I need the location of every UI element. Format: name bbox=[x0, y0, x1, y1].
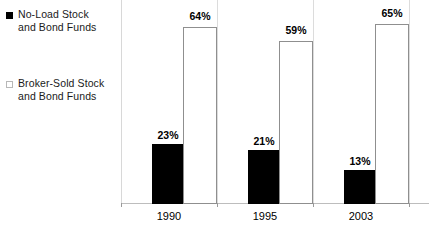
bar-value-broker-sold-1995: 59% bbox=[274, 24, 318, 36]
group-divider-1 bbox=[217, 0, 218, 204]
bar-broker-sold-1995 bbox=[279, 41, 313, 204]
axis-vertical-line bbox=[121, 0, 122, 204]
legend-swatch-filled-icon bbox=[6, 12, 13, 19]
bar-no-load-1995 bbox=[248, 150, 280, 204]
bar-no-load-2003 bbox=[344, 170, 376, 204]
legend-entry-no-load: No-Load Stock and Bond Funds bbox=[6, 8, 118, 34]
bar-value-broker-sold-2003: 65% bbox=[370, 7, 414, 19]
category-label-1990: 1990 bbox=[147, 209, 191, 223]
legend-label-no-load: No-Load Stock and Bond Funds bbox=[18, 8, 96, 34]
tick-mark-3 bbox=[409, 203, 410, 207]
legend-swatch-hollow-icon bbox=[6, 81, 13, 88]
bar-chart: No-Load Stock and Bond Funds Broker-Sold… bbox=[0, 0, 431, 234]
tick-mark-1 bbox=[217, 203, 218, 207]
tick-mark-2 bbox=[313, 203, 314, 207]
bar-broker-sold-1990 bbox=[183, 27, 217, 204]
category-label-2003: 2003 bbox=[339, 209, 383, 223]
chart-legend: No-Load Stock and Bond Funds Broker-Sold… bbox=[6, 8, 118, 103]
category-label-1995: 1995 bbox=[243, 209, 287, 223]
legend-label-broker-sold: Broker-Sold Stock and Bond Funds bbox=[18, 77, 104, 103]
bar-value-broker-sold-1990: 64% bbox=[178, 10, 222, 22]
bar-broker-sold-2003 bbox=[375, 24, 409, 204]
group-divider-3 bbox=[409, 0, 410, 204]
bar-no-load-1990 bbox=[152, 144, 184, 204]
legend-entry-broker-sold: Broker-Sold Stock and Bond Funds bbox=[6, 77, 118, 103]
tick-mark-0 bbox=[121, 203, 122, 207]
plot-area: 23% 64% 21% 59% 13% 65% 1990 1995 2003 bbox=[121, 0, 431, 234]
